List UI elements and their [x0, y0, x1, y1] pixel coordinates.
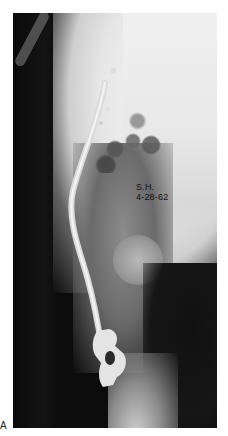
- intramedullary-rod-implant: [13, 13, 217, 428]
- exam-date: 4-28-62: [136, 192, 168, 202]
- radiograph-image: S.H. 4-28-62: [13, 13, 217, 428]
- figure-panel-label: A: [0, 420, 7, 431]
- patient-initials: S.H.: [136, 182, 168, 192]
- patient-annotation: S.H. 4-28-62: [136, 182, 168, 202]
